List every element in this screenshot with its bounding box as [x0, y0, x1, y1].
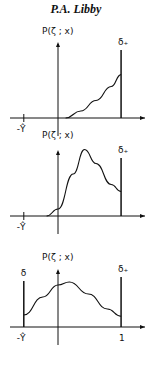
pdf-plot-2: P(ζ ; x)δ₊-Ŷ [0, 128, 152, 253]
pdf-plot-1: P(ζ ; x)δ₊-Ŷ [0, 20, 152, 140]
y-axis-arrow-icon [56, 150, 60, 155]
delta-minus-label: δ [21, 268, 27, 278]
page-header: P.A. Libby [0, 2, 152, 17]
pdf-curve [66, 75, 121, 118]
delta-plus-label: δ₊ [118, 37, 129, 47]
pdf-plot-3: P(ζ ; x)δ₊δ-Ŷ1 [0, 252, 152, 376]
y-axis-label: P(ζ ; x) [42, 26, 73, 36]
y-axis-arrow-icon [56, 269, 60, 274]
x-axis-arrow-icon [140, 116, 145, 120]
x-axis-arrow-icon [140, 214, 145, 218]
pdf-curve [24, 282, 121, 316]
delta-plus-label: δ₊ [118, 264, 129, 274]
x-tick-label-left: -Ŷ [17, 332, 26, 343]
x-axis-arrow-icon [140, 325, 145, 329]
x-tick-label-left: -Ŷ [17, 221, 26, 232]
y-axis-label: P(ζ ; x) [42, 252, 73, 262]
y-axis-label: P(ζ ; x) [42, 130, 73, 140]
x-tick-label-right: 1 [119, 333, 125, 343]
y-axis-arrow-icon [56, 42, 60, 47]
delta-plus-label: δ₊ [118, 145, 129, 155]
